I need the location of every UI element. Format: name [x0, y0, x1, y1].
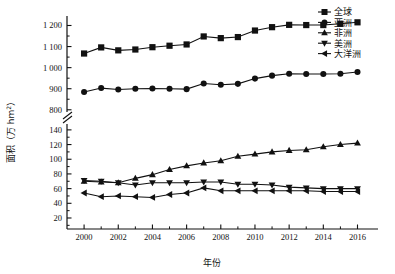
x-tick-labels-group: 200020022004200620082010201220142016 — [76, 232, 366, 242]
data-point — [286, 71, 292, 77]
axis-break-symbol — [63, 112, 73, 124]
x-tick-label: 2010 — [246, 232, 263, 242]
y-tick-label: 40 — [54, 198, 63, 208]
y-tick-label: 140 — [49, 125, 62, 135]
x-tick-label: 2008 — [212, 232, 229, 242]
y-tick-label: 20 — [54, 213, 63, 223]
y-axis-title: 面积（万 hm2） — [5, 97, 16, 163]
legend-label: 大洋洲 — [334, 48, 361, 59]
data-point — [303, 22, 309, 28]
legend-label: 非洲 — [334, 27, 352, 38]
data-point — [201, 80, 207, 86]
legend-label: 美洲 — [334, 38, 352, 49]
data-point — [166, 86, 172, 92]
legend-marker — [322, 19, 328, 25]
legend-marker — [322, 9, 328, 15]
data-point — [354, 69, 360, 75]
line-chart-canvas: 8009001 0001 1001 20020406080100120140 2… — [0, 0, 395, 274]
data-point — [184, 41, 190, 47]
data-point — [115, 87, 121, 93]
y-tick-label: 80 — [54, 169, 63, 179]
data-point — [354, 19, 360, 25]
data-point — [166, 43, 172, 49]
data-point — [149, 85, 155, 91]
x-tick-label: 2012 — [281, 232, 298, 242]
x-tick-label: 2002 — [110, 232, 127, 242]
data-point — [252, 27, 258, 33]
x-tick-label: 2000 — [76, 232, 93, 242]
data-point — [269, 73, 275, 79]
data-point — [132, 86, 138, 92]
data-point — [235, 34, 241, 40]
data-point — [320, 71, 326, 77]
data-point — [149, 44, 155, 50]
data-point — [184, 86, 190, 92]
data-point — [235, 81, 241, 87]
x-tick-label: 2004 — [144, 232, 162, 242]
data-point — [81, 89, 87, 95]
x-tick-label: 2016 — [349, 232, 366, 242]
data-point — [98, 44, 104, 50]
data-point — [337, 71, 343, 77]
y-tick-label: 120 — [49, 140, 62, 150]
y-tick-label: 1 100 — [43, 42, 62, 52]
y-tick-label: 1 200 — [43, 20, 62, 30]
legend-label: 全球 — [334, 6, 352, 17]
data-point — [201, 33, 207, 39]
y-axis-title-text: 面积（万 hm — [5, 110, 16, 163]
x-axis-title: 年份 — [203, 257, 221, 268]
y-tick-label: 60 — [54, 184, 63, 194]
x-tick-label: 2014 — [315, 232, 333, 242]
y-tick-label: 800 — [49, 105, 62, 115]
data-point — [132, 46, 138, 52]
data-point — [81, 50, 87, 56]
svg-text:面积（万 hm2）: 面积（万 hm2） — [5, 97, 16, 163]
chart-figure: 8009001 0001 1001 20020406080100120140 2… — [0, 0, 395, 274]
data-point — [218, 35, 224, 41]
data-point — [115, 47, 121, 53]
data-point — [252, 76, 258, 82]
data-point — [286, 22, 292, 28]
x-tick-label: 2006 — [178, 232, 195, 242]
legend-label: 亚洲 — [334, 18, 352, 28]
data-point — [269, 24, 275, 30]
data-point — [218, 82, 224, 88]
y-tick-label: 100 — [49, 154, 62, 164]
y-tick-label: 1 000 — [43, 63, 62, 73]
y-tick-label: 900 — [49, 84, 62, 94]
data-point — [98, 85, 104, 91]
data-point — [303, 71, 309, 77]
